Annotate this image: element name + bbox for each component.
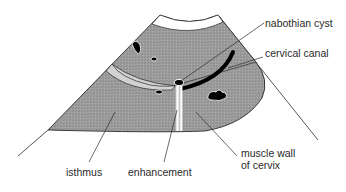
- label-isthmus: isthmus: [66, 166, 102, 178]
- enhancement-stripe: [176, 86, 183, 131]
- cervix-tissue-body: [48, 15, 265, 132]
- sector-left-edge-extension: [18, 130, 48, 156]
- label-enhancement: enhancement: [128, 166, 192, 178]
- label-nabothian-cyst: nabothian cyst: [265, 17, 333, 29]
- cyst-small-upper: [151, 57, 157, 61]
- label-muscle-wall: muscle wall of cervix: [241, 147, 295, 171]
- label-cervical-canal: cervical canal: [265, 47, 329, 59]
- cyst-small-left: [156, 90, 163, 94]
- cervix-ultrasound-diagram: nabothian cyst cervical canal isthmus en…: [0, 0, 346, 192]
